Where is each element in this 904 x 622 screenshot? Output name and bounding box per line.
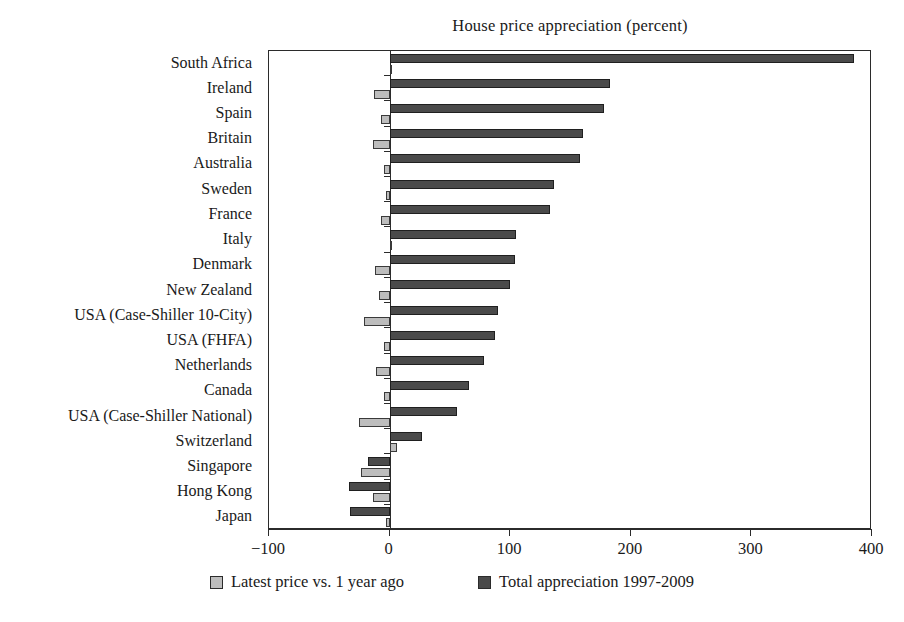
bar-total-appreciation bbox=[390, 54, 854, 63]
y-axis-label: USA (Case-Shiller 10-City) bbox=[74, 307, 252, 323]
bar-group bbox=[269, 328, 870, 353]
x-axis-tick-label: 0 bbox=[384, 539, 392, 559]
bar-group bbox=[269, 51, 870, 76]
bar-group bbox=[269, 76, 870, 101]
y-axis-label: South Africa bbox=[171, 55, 252, 71]
bar-total-appreciation bbox=[368, 457, 390, 466]
x-axis-tick bbox=[389, 529, 390, 536]
chart-title: House price appreciation (percent) bbox=[268, 16, 872, 36]
bar-total-appreciation bbox=[390, 306, 499, 315]
x-axis-tick bbox=[871, 529, 872, 536]
bar-total-appreciation bbox=[390, 432, 423, 441]
y-axis-label: New Zealand bbox=[166, 282, 252, 298]
y-axis-label: Britain bbox=[208, 130, 252, 146]
bar-total-appreciation bbox=[350, 507, 390, 516]
y-axis-label: Switzerland bbox=[176, 433, 252, 449]
bar-latest-price bbox=[390, 443, 397, 452]
bar-group bbox=[269, 227, 870, 252]
y-axis-label: Hong Kong bbox=[177, 483, 252, 499]
bar-latest-price bbox=[390, 65, 392, 74]
bar-group bbox=[269, 278, 870, 303]
x-axis-tick-label: 400 bbox=[859, 539, 884, 559]
x-axis-tick-label: 200 bbox=[617, 539, 642, 559]
bar-total-appreciation bbox=[390, 104, 605, 113]
legend-swatch-icon bbox=[478, 576, 491, 589]
x-axis-tick-label: 300 bbox=[738, 539, 763, 559]
bar-latest-price bbox=[384, 392, 390, 401]
y-axis-label: Canada bbox=[204, 382, 252, 398]
bar-group bbox=[269, 429, 870, 454]
x-axis-tick bbox=[509, 529, 510, 536]
bar-group bbox=[269, 379, 870, 404]
bar-total-appreciation bbox=[390, 154, 581, 163]
y-axis-label: USA (Case-Shiller National) bbox=[68, 408, 252, 424]
bar-total-appreciation bbox=[390, 255, 515, 264]
bar-total-appreciation bbox=[390, 129, 583, 138]
y-axis-category-labels: South AfricaIrelandSpainBritainAustralia… bbox=[0, 50, 258, 529]
y-axis-label: Denmark bbox=[192, 256, 252, 272]
legend-entry: Latest price vs. 1 year ago bbox=[210, 572, 404, 592]
legend-label: Total appreciation 1997-2009 bbox=[499, 572, 694, 592]
bar-total-appreciation bbox=[390, 180, 554, 189]
bar-latest-price bbox=[364, 317, 389, 326]
y-axis-label: Singapore bbox=[187, 458, 252, 474]
y-axis-label: Spain bbox=[216, 105, 252, 121]
bar-group bbox=[269, 127, 870, 152]
bar-total-appreciation bbox=[390, 205, 550, 214]
bar-group bbox=[269, 303, 870, 328]
bar-total-appreciation bbox=[390, 356, 484, 365]
bar-group bbox=[269, 505, 870, 530]
y-axis-label: France bbox=[208, 206, 252, 222]
bar-latest-price bbox=[390, 241, 392, 250]
bar-group bbox=[269, 253, 870, 278]
house-price-appreciation-chart: House price appreciation (percent) South… bbox=[0, 0, 904, 622]
bar-total-appreciation bbox=[390, 230, 517, 239]
bar-latest-price bbox=[374, 90, 390, 99]
bar-group bbox=[269, 101, 870, 126]
y-axis-label: Italy bbox=[223, 231, 252, 247]
chart-legend: Latest price vs. 1 year agoTotal appreci… bbox=[0, 568, 904, 596]
bar-latest-price bbox=[381, 115, 389, 124]
x-axis-line bbox=[268, 529, 871, 530]
bar-latest-price bbox=[373, 493, 390, 502]
bar-latest-price bbox=[373, 140, 390, 149]
y-axis-label: Ireland bbox=[207, 80, 252, 96]
bar-total-appreciation bbox=[349, 482, 390, 491]
bar-latest-price bbox=[386, 191, 390, 200]
bar-total-appreciation bbox=[390, 331, 495, 340]
bar-latest-price bbox=[386, 518, 390, 527]
bar-total-appreciation bbox=[390, 407, 458, 416]
legend-entry: Total appreciation 1997-2009 bbox=[478, 572, 694, 592]
y-axis-label: Australia bbox=[193, 155, 252, 171]
bar-latest-price bbox=[381, 216, 389, 225]
bar-latest-price bbox=[375, 266, 389, 275]
x-axis-tick bbox=[268, 529, 269, 536]
bar-total-appreciation bbox=[390, 79, 611, 88]
bar-group bbox=[269, 404, 870, 429]
bar-latest-price bbox=[361, 468, 390, 477]
bar-group bbox=[269, 202, 870, 227]
bar-latest-price bbox=[379, 291, 390, 300]
bar-group bbox=[269, 480, 870, 505]
legend-label: Latest price vs. 1 year ago bbox=[231, 572, 404, 592]
bar-group bbox=[269, 454, 870, 479]
x-axis-tick-label: 100 bbox=[497, 539, 522, 559]
bar-group bbox=[269, 177, 870, 202]
legend-swatch-icon bbox=[210, 576, 223, 589]
x-axis-tick bbox=[750, 529, 751, 536]
bar-group bbox=[269, 152, 870, 177]
plot-area bbox=[269, 51, 870, 528]
plot-frame bbox=[268, 50, 871, 529]
bar-latest-price bbox=[384, 165, 390, 174]
bar-latest-price bbox=[359, 418, 389, 427]
y-axis-label: Japan bbox=[216, 508, 252, 524]
x-axis: −1000100200300400 bbox=[268, 529, 871, 569]
bar-latest-price bbox=[384, 342, 390, 351]
x-axis-tick bbox=[630, 529, 631, 536]
y-axis-label: Sweden bbox=[201, 181, 252, 197]
y-axis-label: Netherlands bbox=[175, 357, 252, 373]
bar-group bbox=[269, 354, 870, 379]
bar-total-appreciation bbox=[390, 381, 470, 390]
x-axis-tick-label: −100 bbox=[251, 539, 285, 559]
bar-latest-price bbox=[376, 367, 389, 376]
